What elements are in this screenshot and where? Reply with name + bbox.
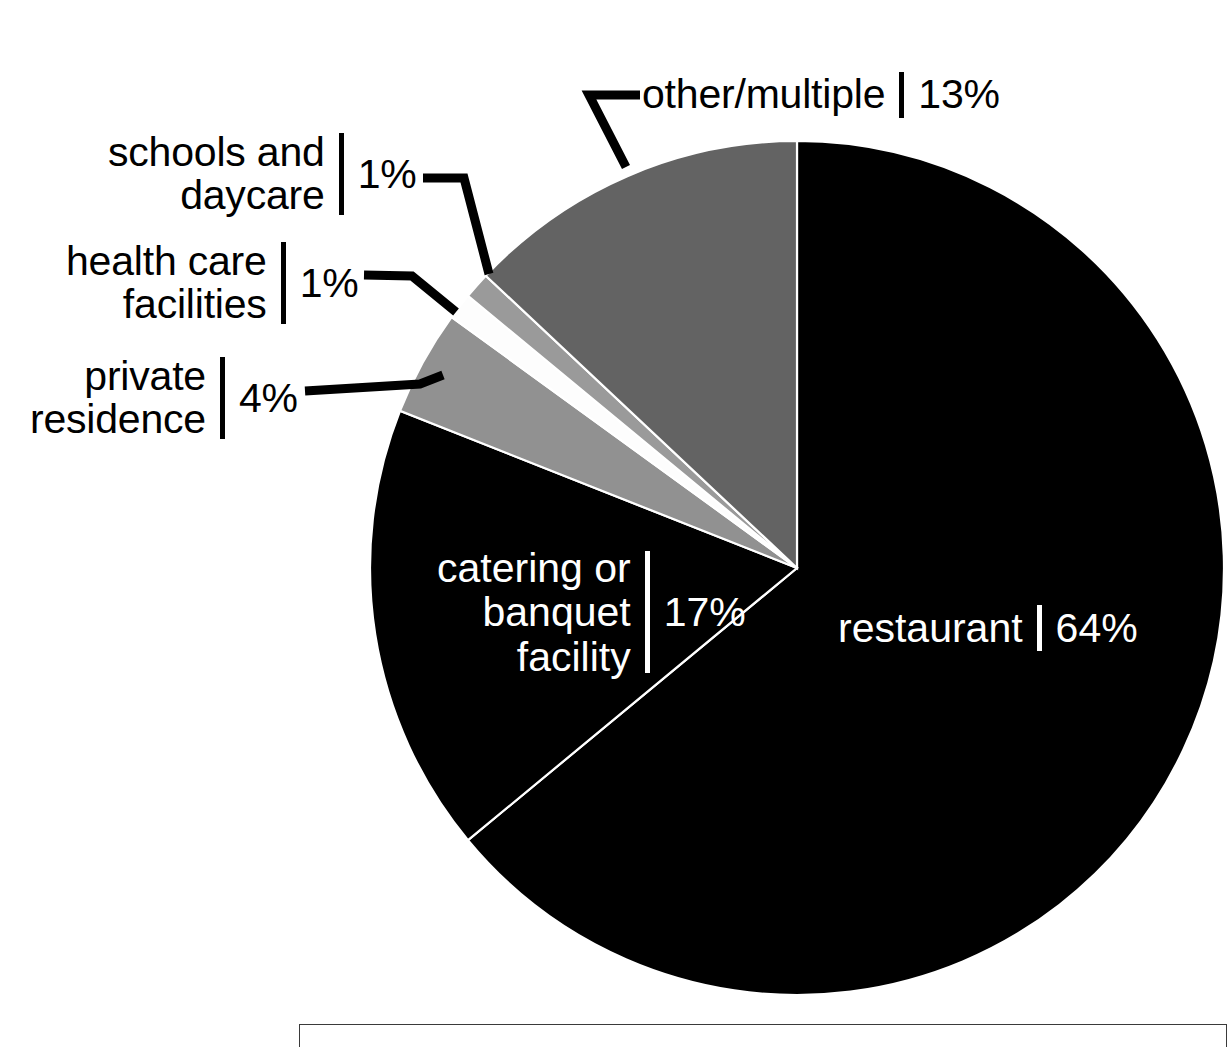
slice-label-restaurant-name: restaurant xyxy=(838,606,1023,650)
label-divider-rule xyxy=(339,133,344,215)
slice-value-restaurant: 64% xyxy=(1056,606,1138,650)
private-label-line-1: private xyxy=(84,353,206,399)
slice-label-health-care-facilities-name: health care facilities xyxy=(66,240,267,327)
schools-label-line-2: daycare xyxy=(180,172,324,218)
chart-canvas: other/multiple 13% schools and daycare 1… xyxy=(0,0,1227,1047)
label-divider-rule xyxy=(1037,605,1042,651)
slice-label-private-residence-name: private residence xyxy=(30,355,206,442)
bottom-frame-border xyxy=(299,1024,1227,1047)
label-divider-rule xyxy=(645,551,650,673)
label-divider-rule xyxy=(281,242,286,324)
slice-label-schools-and-daycare-name: schools and daycare xyxy=(108,131,325,218)
slice-label-catering-or-banquet-facility-name: catering or banquet facility xyxy=(437,546,631,679)
private-label-line-2: residence xyxy=(30,396,206,442)
schools-label-line-1: schools and xyxy=(108,129,325,175)
catering-label-line-1: catering or xyxy=(437,545,631,591)
slice-value-catering-or-banquet-facility: 17% xyxy=(664,590,746,634)
catering-label-line-2: banquet xyxy=(483,589,631,635)
health-label-line-2: facilities xyxy=(123,281,267,327)
slice-label-restaurant: restaurant 64% xyxy=(838,605,1138,651)
slice-value-private-residence: 4% xyxy=(239,377,298,420)
leader-line-other xyxy=(589,95,640,167)
leader-line-health-care xyxy=(364,275,456,312)
leader-line-schools xyxy=(423,178,489,274)
slice-value-health-care-facilities: 1% xyxy=(300,262,359,305)
label-divider-rule xyxy=(899,72,904,118)
slice-label-other-multiple-name: other/multiple xyxy=(642,73,885,116)
slice-label-catering-or-banquet-facility: catering or banquet facility 17% xyxy=(437,546,746,679)
health-label-line-1: health care xyxy=(66,238,267,284)
slice-label-schools-and-daycare: schools and daycare 1% xyxy=(108,131,416,218)
slice-value-schools-and-daycare: 1% xyxy=(358,153,417,196)
catering-label-line-3: facility xyxy=(517,634,631,680)
slice-value-other-multiple: 13% xyxy=(918,73,999,116)
slice-label-health-care-facilities: health care facilities 1% xyxy=(66,240,359,327)
slice-label-private-residence: private residence 4% xyxy=(30,355,298,442)
slice-label-other-multiple: other/multiple 13% xyxy=(642,72,1000,118)
label-divider-rule xyxy=(220,357,225,439)
